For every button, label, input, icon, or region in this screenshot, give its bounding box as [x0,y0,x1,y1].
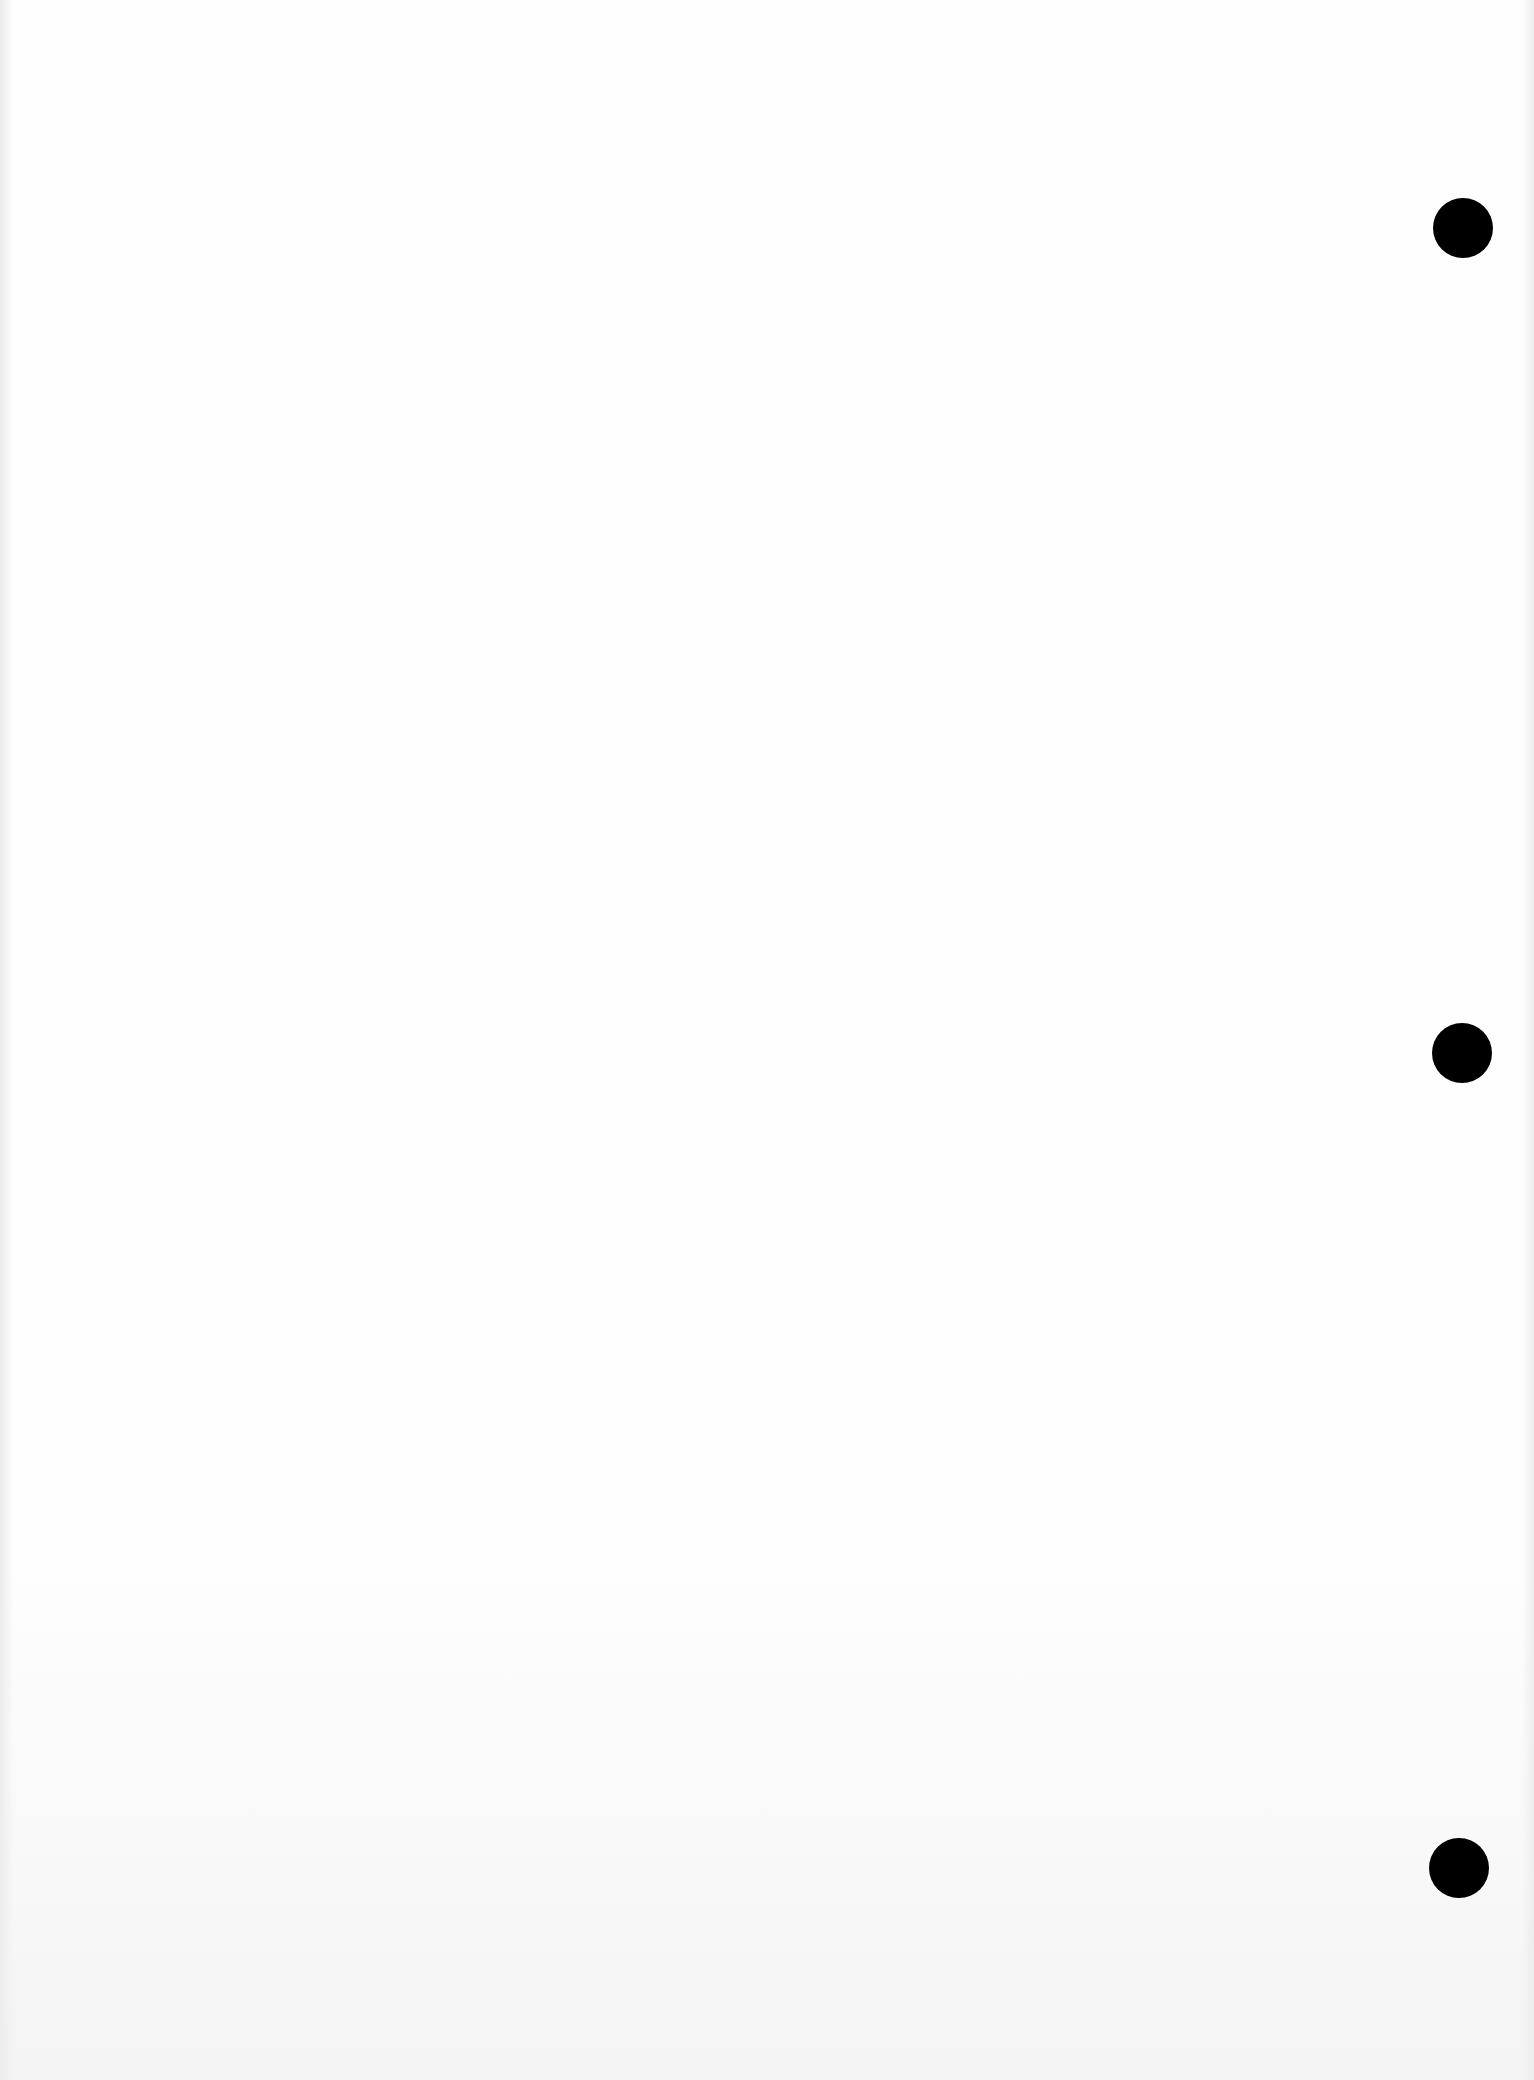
scan-shading-bottom [0,1560,1534,2080]
punch-hole-middle [1432,1023,1492,1083]
punch-hole-bottom [1429,1838,1489,1898]
blank-page [0,0,1534,2080]
punch-hole-top [1433,198,1493,258]
